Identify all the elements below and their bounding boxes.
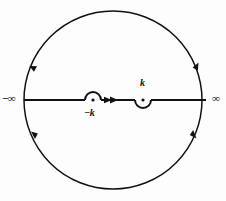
label-pole-positive-k: k xyxy=(140,78,145,88)
pole-dot-pos-k xyxy=(141,98,144,101)
label-pole-negative-k: −k xyxy=(84,108,94,118)
pole-dot-neg-k xyxy=(91,98,94,101)
label-negative-infinity: −∞ xyxy=(2,93,15,104)
contour-figure: −∞ ∞ −k k xyxy=(0,0,226,201)
contour-diagram-svg xyxy=(0,0,226,201)
label-positive-infinity: ∞ xyxy=(212,93,220,104)
arrowhead-circle-upper-left xyxy=(30,66,38,72)
